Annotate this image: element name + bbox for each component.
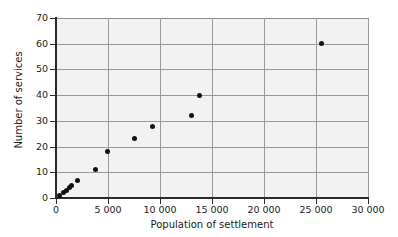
gridline-vertical (160, 18, 161, 198)
y-axis-tick-label: 10 (22, 167, 48, 177)
data-point (189, 113, 194, 118)
x-axis-tick-label: 20 000 (247, 205, 280, 215)
gridline-vertical (368, 18, 369, 198)
gridline-vertical (108, 18, 109, 198)
y-axis-tick (50, 147, 55, 148)
gridline-vertical (316, 18, 317, 198)
y-axis-tick-label: 50 (22, 64, 48, 74)
data-point (150, 124, 155, 129)
y-axis-line (55, 17, 57, 199)
y-axis-tick (50, 69, 55, 70)
scatter-chart: Number of services Population of settlem… (0, 0, 398, 237)
y-axis-tick-label: 30 (22, 116, 48, 126)
y-axis-tick-label: 40 (22, 90, 48, 100)
data-point (75, 178, 80, 183)
y-axis-tick-label: 60 (22, 39, 48, 49)
y-axis-tick-label: 70 (22, 13, 48, 23)
data-point (319, 41, 324, 46)
x-axis-tick-label: 0 (53, 205, 59, 215)
data-point (197, 93, 202, 98)
y-axis-tick (50, 44, 55, 45)
x-axis-tick-label: 10 000 (143, 205, 176, 215)
y-axis-tick-label: 20 (22, 142, 48, 152)
y-axis-tick (50, 95, 55, 96)
gridline-vertical (264, 18, 265, 198)
x-axis-title: Population of settlement (56, 220, 368, 230)
x-axis-tick-label: 5 000 (94, 205, 121, 215)
y-axis-tick (50, 121, 55, 122)
y-axis-tick-label: 0 (22, 193, 48, 203)
gridline-vertical (212, 18, 213, 198)
y-axis-tick (50, 198, 55, 199)
y-axis-tick (50, 18, 55, 19)
x-axis-tick-label: 30 000 (351, 205, 384, 215)
data-point (69, 183, 74, 188)
x-axis-tick-label: 15 000 (195, 205, 228, 215)
x-axis-tick-label: 25 000 (299, 205, 332, 215)
y-axis-tick (50, 172, 55, 173)
